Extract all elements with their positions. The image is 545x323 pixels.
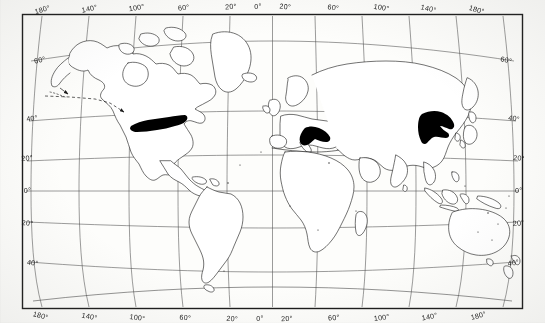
lat-left-5: 40°: [26, 257, 39, 268]
lat-right-5: 40°: [507, 257, 520, 268]
map-canvas: 180° 140° 100° 60° 20° 0° 20° 60° 100° 1…: [0, 0, 545, 323]
lat-left-3: 0°: [24, 186, 31, 195]
coast-hudson-bay: [123, 62, 149, 86]
world-map-figure: 180° 140° 100° 60° 20° 0° 20° 60° 100° 1…: [0, 0, 545, 323]
lat-left-1: 40°: [26, 113, 39, 124]
lat-right-1: 40°: [508, 113, 521, 124]
lat-right-2: 20°: [513, 153, 525, 163]
coast-sri-lanka: [403, 185, 407, 192]
lon-bot-3: 60°: [179, 313, 191, 323]
lon-top-4: 20°: [225, 2, 237, 12]
lon-top-5: 0°: [254, 2, 261, 11]
lon-top-7: 60°: [327, 2, 339, 12]
lat-right-4: 20°: [512, 218, 524, 228]
lon-bot-6: 20°: [281, 314, 293, 323]
lon-top-3: 60°: [177, 2, 189, 12]
lat-left-2: 20°: [21, 153, 33, 163]
lat-left-4: 20°: [21, 218, 33, 228]
lat-right-3: 0°: [515, 186, 522, 195]
coast-iberia: [270, 135, 287, 148]
lon-bot-7: 60°: [328, 313, 340, 323]
lon-top-6: 20°: [279, 2, 291, 12]
lon-bot-5: 0°: [256, 314, 263, 323]
lon-bot-4: 20°: [226, 314, 238, 323]
